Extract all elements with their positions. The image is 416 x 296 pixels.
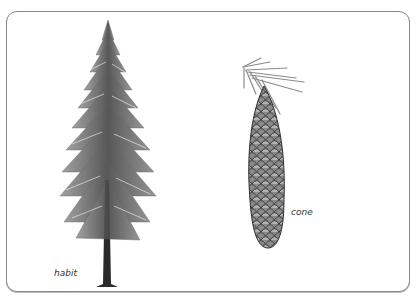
cone-illustration bbox=[0, 0, 416, 296]
habit-label: habit bbox=[54, 268, 77, 278]
cone-label: cone bbox=[291, 207, 313, 217]
